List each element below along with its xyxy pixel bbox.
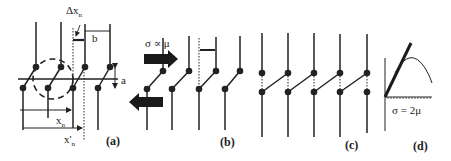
x-prime-n-label: x'n bbox=[64, 133, 75, 148]
atom-dot bbox=[45, 85, 52, 92]
atom-dot bbox=[107, 64, 114, 71]
a-label: a bbox=[121, 74, 126, 86]
panel-a-label: (a) bbox=[106, 134, 120, 148]
atom-dot bbox=[95, 85, 102, 92]
dislocation-diagram: Δxn b a xn x'n (a) σ ∝ μ (b bbox=[0, 0, 451, 161]
panel-c: (c) bbox=[259, 33, 371, 152]
sigma-proportional-mu-label: σ ∝ μ bbox=[145, 37, 170, 49]
shear-arrow-right-icon bbox=[144, 50, 178, 68]
b-label: b bbox=[92, 32, 98, 44]
linear-stress-line bbox=[385, 43, 411, 97]
x-n-label: xn bbox=[56, 114, 66, 129]
atom-dot bbox=[58, 64, 65, 71]
panel-d: σ = 2μ (d) bbox=[385, 43, 432, 153]
panel-b: σ ∝ μ (b) bbox=[129, 36, 243, 149]
panel-b-label: (b) bbox=[220, 135, 235, 149]
sigma-equals-2mu-label: σ = 2μ bbox=[392, 104, 421, 116]
panel-c-label: (c) bbox=[345, 138, 358, 152]
panel-a: Δxn b a xn x'n (a) bbox=[18, 4, 126, 148]
panel-d-label: (d) bbox=[413, 139, 428, 153]
shear-arrow-left-icon bbox=[129, 93, 163, 111]
atom-dot bbox=[20, 85, 27, 92]
atom-dot bbox=[82, 64, 89, 71]
delta-x-label: Δxn bbox=[66, 4, 83, 19]
